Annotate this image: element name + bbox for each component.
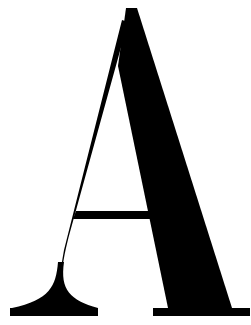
letter-a-graphic <box>0 0 251 325</box>
left-serif <box>10 308 98 316</box>
letter-a-glyph: A <box>0 0 251 325</box>
right-serif <box>153 308 250 316</box>
crossbar <box>73 211 166 219</box>
